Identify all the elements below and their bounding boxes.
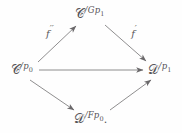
object-c-over-gp1: 𝒞/Gp1	[75, 7, 104, 21]
script-d-glyph: 𝒟	[148, 62, 158, 77]
script-c-glyph: 𝒞	[11, 62, 20, 77]
object-c-over-gp1-exponent: /Gp1	[85, 5, 105, 15]
object-c-over-p0-exponent: /p0	[20, 61, 33, 71]
object-d-over-p1-subscript: 1	[167, 66, 171, 74]
arrow-label-f-double-prime: f′′	[46, 28, 54, 39]
object-d-over-fp0-exponent: /Fp0	[85, 110, 104, 120]
script-c-glyph: 𝒞	[75, 6, 84, 21]
script-d-glyph: 𝒟	[74, 111, 84, 126]
object-d-over-p1-super: /p	[159, 61, 168, 71]
object-c-over-p0-subscript: 0	[29, 66, 33, 74]
object-d-over-fp0: 𝒟/Fp0.	[74, 112, 107, 126]
object-c-over-p0: 𝒞/p0	[11, 63, 33, 77]
arrow-label-f-double-prime-marks: ′′	[50, 24, 54, 34]
object-d-over-p1-exponent: /p1	[159, 61, 172, 71]
arrow-label-f-prime-marks: ′	[135, 24, 137, 34]
object-c-over-gp1-super: /Gp	[85, 5, 101, 15]
arrow-d-fp0-to-d-p1	[110, 80, 151, 110]
commutative-diagram: 𝒞/p0 𝒞/Gp1 𝒟/p1 𝒟/Fp0. f′′ f′	[0, 0, 182, 133]
trailing-period: .	[104, 113, 108, 126]
object-d-over-fp0-super: /Fp	[85, 110, 100, 120]
arrow-c-gp1-to-d-p1	[105, 25, 146, 61]
arrow-c-p0-to-c-gp1	[38, 26, 76, 62]
arrow-c-p0-to-d-fp0	[30, 80, 74, 110]
object-d-over-p1: 𝒟/p1	[148, 63, 171, 77]
object-c-over-p0-super: /p	[20, 61, 29, 71]
arrow-label-f-prime: f′	[131, 28, 137, 39]
object-c-over-gp1-subscript: 1	[100, 10, 104, 18]
